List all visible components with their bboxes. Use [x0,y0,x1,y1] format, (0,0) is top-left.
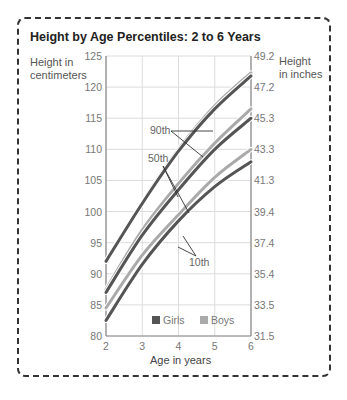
y-tick-left: 120 [84,81,102,93]
annotation-90th: 90th [150,124,171,136]
y-tick-right: 39.4 [254,206,275,218]
y-tick-left: 110 [85,143,102,155]
legend: GirlsBoys [152,314,234,326]
legend-swatch-boys [200,316,208,324]
annotation-10th: 10th [189,256,210,268]
y-tick-right: 47.2 [254,81,275,93]
y-tick-left: 95 [90,237,102,249]
y-tick-left: 100 [84,206,102,218]
y-tick-right: 41.3 [254,174,275,186]
y-tick-left: 90 [90,268,102,280]
y-tick-right: 37.4 [254,237,275,249]
x-tick: 2 [103,340,109,352]
y-tick-right: 49.2 [254,50,275,62]
x-tick: 5 [212,340,218,352]
y-tick-right: 35.4 [254,268,275,280]
y-tick-left: 85 [90,299,102,311]
annotation-50th: 50th [148,152,169,164]
y-tick-left: 115 [85,112,102,124]
x-tick: 6 [248,340,254,352]
y-tick-left: 80 [90,330,102,342]
legend-label-girls: Girls [163,314,185,326]
y-tick-right: 45.3 [254,112,275,124]
legend-label-boys: Boys [211,314,234,326]
y-tick-right: 31.5 [254,330,275,342]
y-tick-right: 33.5 [254,299,275,311]
x-tick: 4 [176,340,182,352]
x-tick: 3 [139,340,145,352]
line-chart: 8031.58533.59035.49537.410039.410541.311… [0,0,347,400]
y-tick-left: 125 [84,50,102,62]
y-tick-left: 105 [84,174,102,186]
legend-swatch-girls [152,316,160,324]
y-tick-right: 43.3 [254,143,275,155]
